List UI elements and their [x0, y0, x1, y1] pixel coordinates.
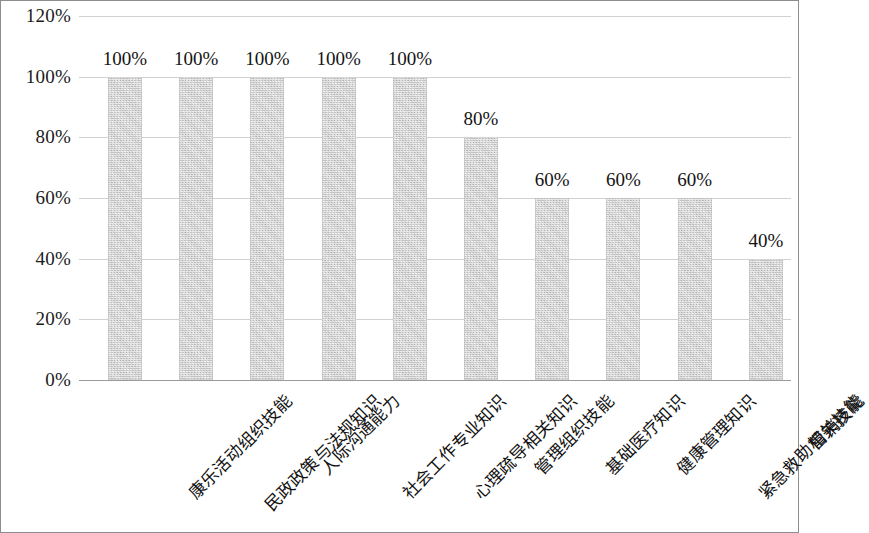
- bar: [606, 198, 640, 380]
- bar: [322, 77, 356, 380]
- x-category-label: 营销技能: [802, 388, 869, 455]
- bar-value-label: 100%: [370, 48, 450, 70]
- bar: [464, 137, 498, 380]
- bar-value-label: 60%: [512, 169, 592, 191]
- y-tick-label: 60%: [7, 187, 71, 209]
- gridline-0: [79, 380, 791, 381]
- y-tick-label: 40%: [7, 248, 71, 270]
- y-tick-label: 20%: [7, 308, 71, 330]
- bar: [393, 77, 427, 380]
- bar-value-label: 100%: [299, 48, 379, 70]
- bar: [179, 77, 213, 380]
- plot-area: 100%100%100%100%100%80%60%60%60%40%: [79, 16, 791, 380]
- bar: [749, 259, 783, 380]
- bar-value-label: 100%: [227, 48, 307, 70]
- y-tick-label: 100%: [7, 66, 71, 88]
- y-tick-label: 80%: [7, 126, 71, 148]
- bar: [250, 77, 284, 380]
- bar-value-label: 100%: [85, 48, 165, 70]
- y-tick-label: 120%: [7, 5, 71, 27]
- bar-value-label: 80%: [441, 108, 521, 130]
- gridline-120: [79, 16, 791, 17]
- bar-value-label: 60%: [655, 169, 735, 191]
- y-tick-label: 0%: [7, 369, 71, 391]
- bar: [108, 77, 142, 380]
- bar: [678, 198, 712, 380]
- bar-value-label: 40%: [726, 230, 806, 252]
- bar: [535, 198, 569, 380]
- bar-value-label: 60%: [583, 169, 663, 191]
- bar-value-label: 100%: [156, 48, 236, 70]
